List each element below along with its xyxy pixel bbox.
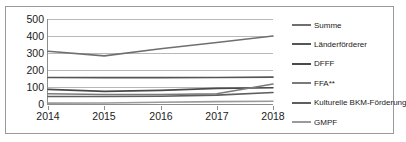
series-line-ffa — [48, 84, 273, 95]
series-line-l-nderf-rderer — [48, 77, 273, 78]
legend-line-swatch-icon — [292, 102, 311, 104]
y-tick-label-300: 300 — [4, 48, 44, 58]
legend-item-label: DFFF — [314, 59, 334, 68]
y-tick-label-100: 100 — [4, 82, 44, 92]
legend-item-ffa[interactable]: FFA** — [292, 77, 335, 89]
legend-item-label: Kulturelle BKM-Förderung — [314, 98, 406, 107]
x-tick-label-2014: 2014 — [27, 111, 69, 122]
y-tick-label-200: 200 — [4, 65, 44, 75]
legend-item-dfff[interactable]: DFFF — [292, 58, 334, 70]
x-tick-label-2017: 2017 — [196, 111, 238, 122]
legend-line-swatch-icon — [292, 43, 311, 45]
y-axis-tick-labels: 5004003002001000 — [0, 19, 44, 104]
legend-item-label: FFA** — [314, 79, 335, 88]
legend-line-swatch-icon — [292, 82, 311, 84]
y-tick-label-400: 400 — [4, 31, 44, 41]
legend-item-l-nderf-rderer[interactable]: Länderförderer — [292, 38, 367, 50]
y-tick-label-0: 0 — [4, 99, 44, 109]
legend-item-gmpf[interactable]: GMPF — [292, 116, 337, 128]
legend-item-label: GMPF — [314, 118, 337, 127]
series-lines — [48, 19, 273, 104]
x-tick-label-2018: 2018 — [252, 111, 294, 122]
legend-line-swatch-icon — [292, 63, 311, 65]
legend-item-label: Summe — [314, 21, 342, 30]
x-axis-tick-labels: 20142015201620172018 — [48, 106, 273, 124]
x-tick-label-2015: 2015 — [83, 111, 125, 122]
series-line-gmpf — [48, 101, 273, 103]
gridline-0 — [48, 104, 273, 105]
legend-item-label: Länderförderer — [314, 40, 367, 49]
chart-legend: SummeLänderfördererDFFFFFA**Kulturelle B… — [292, 19, 396, 123]
legend-item-summe[interactable]: Summe — [292, 19, 342, 31]
plot-area — [48, 19, 273, 104]
x-tick-label-2016: 2016 — [140, 111, 182, 122]
legend-line-swatch-icon — [292, 121, 311, 123]
series-line-summe — [48, 36, 273, 56]
legend-item-kulturelle-bkm-f-rderung[interactable]: Kulturelle BKM-Förderung — [292, 97, 406, 109]
y-tick-label-500: 500 — [4, 14, 44, 24]
legend-line-swatch-icon — [292, 24, 311, 26]
